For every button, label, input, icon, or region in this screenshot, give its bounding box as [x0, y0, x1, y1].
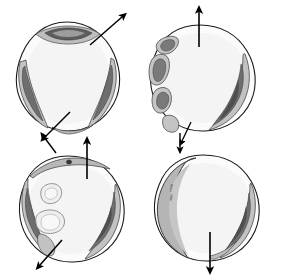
panel3-rim-dot — [66, 160, 71, 164]
figure-root: whole layer — [0, 0, 282, 279]
cross-section-figure — [0, 0, 282, 279]
panel3-interior-blob-upper-core — [45, 188, 57, 199]
panel3-interior-blob-lower-core — [41, 214, 60, 230]
panel2-left-segment-4 — [163, 115, 179, 132]
